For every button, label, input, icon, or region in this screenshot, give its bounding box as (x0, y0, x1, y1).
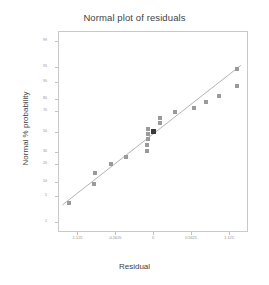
x-axis: -1.125-0.562500.56251.125 (58, 233, 248, 253)
plot-frame (58, 31, 248, 232)
y-tick-label: 10 (43, 180, 47, 184)
y-tick-label: 50 (43, 130, 47, 134)
x-tick-mark (115, 232, 116, 235)
y-tick-label: 95 (43, 66, 47, 70)
y-tick-mark (55, 182, 58, 183)
y-tick-label: 30 (43, 150, 47, 154)
page-title: Normal plot of residuals (0, 12, 269, 23)
x-tick-mark (77, 232, 78, 235)
y-tick-mark (55, 82, 58, 83)
y-tick-label: 1 (45, 220, 47, 224)
y-tick-mark (55, 99, 58, 100)
x-tick-label: -1.125 (72, 237, 83, 241)
y-tick-mark (55, 222, 58, 223)
x-tick-label: -0.5625 (109, 237, 122, 241)
x-axis-title: Residual (0, 262, 269, 271)
x-tick-label: 0 (152, 237, 154, 241)
y-tick-label: 5 (45, 194, 47, 198)
y-tick-mark (55, 164, 58, 165)
y-tick-mark (55, 67, 58, 68)
x-tick-mark (153, 232, 154, 235)
y-tick-mark (55, 132, 58, 133)
y-tick-label: 20 (43, 163, 47, 167)
y-tick-label: 80 (43, 97, 47, 101)
y-tick-mark (55, 41, 58, 42)
x-tick-mark (191, 232, 192, 235)
y-tick-mark (55, 196, 58, 197)
y-tick-label: 90 (43, 80, 47, 84)
x-tick-mark (229, 232, 230, 235)
normal-probability-plot: Normal plot of residuals 999590807050302… (0, 0, 269, 285)
y-tick-label: 99 (43, 39, 47, 43)
y-tick-mark (55, 111, 58, 112)
y-tick-mark (55, 152, 58, 153)
y-axis-title: Normal % probability (21, 49, 30, 209)
x-tick-label: 1.125 (224, 237, 234, 241)
x-tick-label: 0.5625 (185, 237, 197, 241)
y-tick-label: 70 (43, 109, 47, 113)
